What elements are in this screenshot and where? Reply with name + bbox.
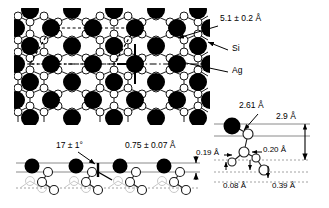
label-offset-020: 0.20 Å — [263, 146, 286, 154]
label-offset-019: 0.19 Å — [196, 149, 219, 157]
figure-root: 5.1 ± 0.2 Å Si Ag 17 ± 1° 0.75 ± 0.07 Å … — [0, 0, 329, 208]
detail-ag-atom — [224, 118, 241, 135]
label-ag-spacing: 5.1 ± 0.2 Å — [220, 14, 261, 23]
top-view-panel — [0, 1, 219, 127]
label-si: Si — [232, 44, 240, 53]
label-offset-039: 0.39 Å — [272, 182, 295, 190]
label-layer-separation: 0.75 ± 0.07 Å — [125, 141, 176, 150]
label-height-29: 2.9 Å — [276, 112, 296, 121]
figure-canvas — [0, 0, 329, 208]
label-bond-261: 2.61 Å — [239, 101, 264, 110]
leader-si — [208, 42, 228, 50]
label-offset-008: 0.08 Å — [223, 182, 246, 190]
label-tilt-angle: 17 ± 1° — [56, 141, 83, 150]
leader-261 — [244, 114, 258, 130]
label-ag: Ag — [232, 66, 242, 75]
side-view-panel — [16, 152, 200, 195]
detail-view-panel — [214, 114, 310, 182]
